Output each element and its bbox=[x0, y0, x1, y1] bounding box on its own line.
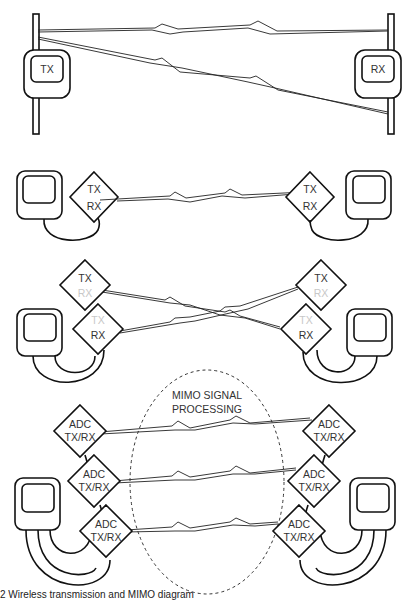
right-adc-node-1: ADC TX/RX bbox=[303, 405, 355, 457]
right-rx-node: TX RX bbox=[281, 304, 331, 354]
adc-label: ADC bbox=[318, 418, 341, 430]
left-adc-node-2: ADC TX/RX bbox=[68, 455, 120, 507]
mimo-label-line1: MIMO SIGNAL bbox=[172, 389, 242, 401]
rx-label-inactive: RX bbox=[78, 287, 93, 299]
adc-label: ADC bbox=[95, 518, 118, 530]
left-adc-node-1: ADC TX/RX bbox=[54, 405, 106, 457]
wireless-link bbox=[100, 189, 305, 202]
figure-caption: 2 Wireless transmission and MIMO diagram bbox=[0, 589, 194, 600]
tx-label: TX bbox=[314, 272, 327, 284]
tx-label: TX bbox=[78, 272, 91, 284]
right-adc-node-2: ADC TX/RX bbox=[288, 455, 340, 507]
left-rx-node: TX RX bbox=[73, 304, 123, 354]
tx-label: TX bbox=[303, 183, 316, 195]
panel-1-point-to-point: TX RX bbox=[24, 14, 401, 134]
mimo-label-line2: PROCESSING bbox=[172, 403, 242, 415]
rx-label: RX bbox=[303, 200, 318, 212]
tx-label-inactive: TX bbox=[299, 314, 312, 326]
left-adc-node-3: ADC TX/RX bbox=[80, 505, 132, 557]
right-tx-node: TX RX bbox=[296, 260, 346, 310]
right-transceiver-node: TX RX bbox=[286, 172, 334, 222]
txrx-label: TX/RX bbox=[79, 481, 110, 493]
rx-label: RX bbox=[371, 63, 386, 75]
rx-label: RX bbox=[91, 329, 106, 341]
tx-label: TX bbox=[40, 63, 53, 75]
txrx-label: TX/RX bbox=[91, 531, 122, 543]
adc-label: ADC bbox=[303, 468, 326, 480]
tx-label-inactive: TX bbox=[91, 314, 104, 326]
adc-label: ADC bbox=[83, 468, 106, 480]
txrx-label: TX/RX bbox=[284, 531, 315, 543]
direct-wireless-path bbox=[38, 21, 388, 34]
txrx-label: TX/RX bbox=[299, 481, 330, 493]
panel-2-single-transceiver: TX RX TX RX bbox=[17, 171, 391, 240]
left-transceiver-node: TX RX bbox=[70, 172, 118, 222]
rx-label: RX bbox=[87, 200, 102, 212]
tx-label: TX bbox=[87, 183, 100, 195]
adc-label: ADC bbox=[288, 518, 311, 530]
crossing-wireless-links bbox=[102, 287, 298, 333]
txrx-label: TX/RX bbox=[65, 431, 96, 443]
reflected-wireless-path bbox=[38, 37, 388, 114]
rx-device: RX bbox=[355, 50, 401, 98]
rx-label-inactive: RX bbox=[314, 287, 329, 299]
left-tx-node: TX RX bbox=[60, 260, 110, 310]
panel-3-separate-tx-rx: TX RX TX RX TX RX TX RX bbox=[17, 260, 392, 383]
rx-label: RX bbox=[299, 329, 314, 341]
tx-device: TX bbox=[24, 50, 70, 98]
adc-label: ADC bbox=[69, 418, 92, 430]
panel-4-mimo: MIMO SIGNAL PROCESSING bbox=[15, 370, 395, 594]
txrx-label: TX/RX bbox=[314, 431, 345, 443]
